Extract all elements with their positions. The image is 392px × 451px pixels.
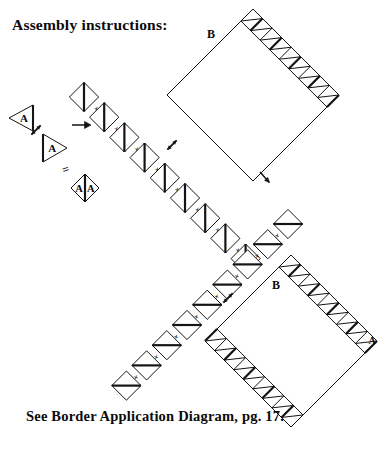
diagram-vector-layer: AA=AA++++++++++++++++BBA [0,0,392,451]
block-b-bottom-corner-label: A [368,335,376,346]
block-b-top-label: B [207,27,215,41]
arrow-right-icon-head [85,121,92,128]
legend-triangle-a-right-label: A [48,142,56,154]
unit-square-aa-label-right: A [87,183,95,194]
block-outline-0 [167,9,339,181]
footer-reference-note: See Border Application Diagram, pg. 17. [26,408,284,425]
rotate-arrow-icon-0 [167,140,176,149]
assembly-diagram-canvas: AA=AA++++++++++++++++BBA Assembly instru… [0,0,392,451]
block-b-bottom-label: B [272,278,280,292]
equals-sign-label: = [60,161,71,177]
unit-square-aa-label-left: A [75,183,83,194]
legend-triangle-a-left-label: A [20,112,28,124]
page-title: Assembly instructions: [12,16,168,34]
